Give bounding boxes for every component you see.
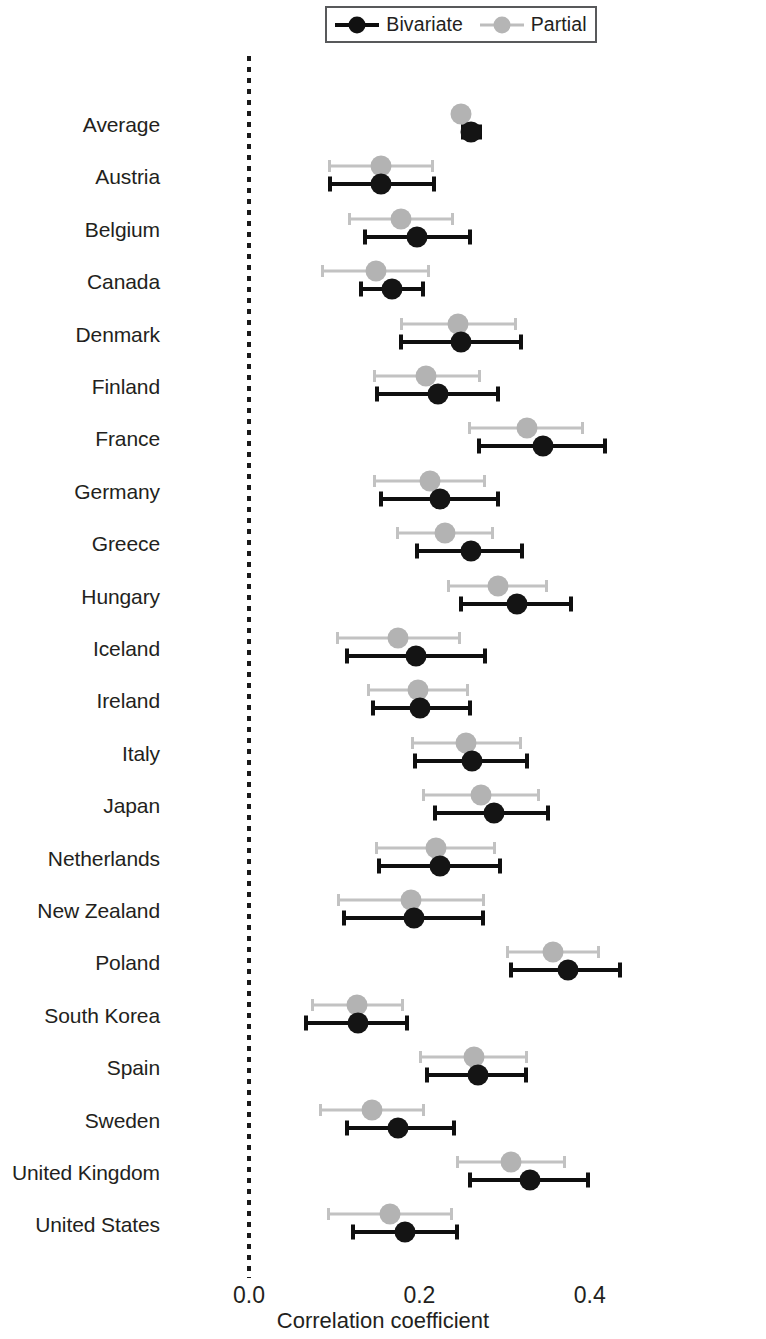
interval-cap-low: [319, 1104, 322, 1116]
interval-cap-high: [493, 842, 496, 854]
estimate-point: [557, 960, 578, 981]
interval-cap-low: [415, 544, 419, 559]
interval-cap-low: [336, 632, 339, 644]
forest-plot-figure: Bivariate Partial AverageAustriaBelgiumC…: [0, 0, 766, 1339]
estimate-point: [410, 698, 431, 719]
interval-cap-low: [359, 282, 363, 297]
interval-partial: [400, 316, 517, 332]
interval-cap-low: [345, 1120, 349, 1135]
interval-bivariate: [413, 753, 529, 769]
interval-cap-high: [597, 946, 600, 958]
interval-partial: [367, 682, 469, 698]
interval-cap-low: [375, 387, 379, 402]
interval-cap-high: [519, 737, 522, 749]
interval-cap-low: [304, 1015, 308, 1030]
interval-cap-low: [413, 753, 417, 768]
category-label: South Korea: [44, 1004, 160, 1025]
interval-cap-low: [371, 701, 375, 716]
interval-bivariate: [304, 1015, 409, 1031]
interval-cap-low: [373, 475, 376, 487]
interval-partial: [311, 997, 404, 1013]
interval-cap-high: [451, 213, 454, 225]
interval-cap-high: [401, 999, 404, 1011]
estimate-point: [451, 331, 472, 352]
category-axis-labels: AverageAustriaBelgiumCanadaDenmarkFinlan…: [0, 0, 160, 1290]
interval-cap-low: [506, 946, 509, 958]
interval-bivariate: [477, 438, 607, 454]
interval-partial: [327, 1206, 453, 1222]
interval-bivariate: [359, 281, 425, 297]
interval-cap-low: [456, 1156, 459, 1168]
legend-label-bivariate: Bivariate: [386, 13, 463, 36]
estimate-point: [484, 803, 505, 824]
interval-cap-high: [483, 475, 486, 487]
estimate-point: [365, 261, 386, 282]
estimate-point: [543, 942, 564, 963]
category-label: France: [95, 428, 160, 449]
interval-bivariate: [425, 1067, 528, 1083]
interval-cap-high: [514, 318, 517, 330]
legend-label-partial: Partial: [531, 13, 587, 36]
zero-reference-line: [247, 56, 251, 1278]
interval-cap-low: [509, 963, 513, 978]
interval-cap-high: [524, 1068, 528, 1083]
interval-cap-low: [321, 265, 324, 277]
interval-partial: [453, 106, 468, 122]
interval-cap-high: [563, 1156, 566, 1168]
interval-cap-low: [327, 1208, 330, 1220]
interval-bivariate: [468, 1172, 590, 1188]
legend-key-partial-icon: [480, 16, 524, 34]
interval-partial: [337, 892, 485, 908]
estimate-point: [390, 208, 411, 229]
estimate-point: [461, 122, 482, 143]
category-label: Ireland: [96, 690, 160, 711]
interval-cap-low: [468, 1173, 472, 1188]
estimate-point: [348, 1012, 369, 1033]
interval-partial: [319, 1102, 425, 1118]
estimate-point: [394, 1222, 415, 1243]
interval-cap-low: [433, 806, 437, 821]
x-tick-label: 0.4: [574, 1282, 606, 1309]
interval-cap-high: [452, 1120, 456, 1135]
interval-cap-high: [421, 282, 425, 297]
estimate-point: [462, 750, 483, 771]
interval-cap-high: [520, 544, 524, 559]
interval-bivariate: [399, 334, 523, 350]
estimate-point: [379, 1204, 400, 1225]
interval-partial: [373, 473, 485, 489]
interval-bivariate: [377, 858, 502, 874]
plot-area: AverageAustriaBelgiumCanadaDenmarkFinlan…: [0, 0, 766, 1290]
interval-cap-low: [447, 580, 450, 592]
interval-cap-high: [468, 229, 472, 244]
interval-cap-low: [348, 213, 351, 225]
estimate-point: [388, 1117, 409, 1138]
interval-partial: [456, 1154, 566, 1170]
interval-bivariate: [509, 962, 622, 978]
interval-cap-low: [477, 439, 481, 454]
estimate-point: [405, 646, 426, 667]
category-label: Iceland: [93, 638, 160, 659]
interval-cap-low: [425, 1068, 429, 1083]
interval-cap-high: [525, 1051, 528, 1063]
estimate-point: [520, 1170, 541, 1191]
category-label: United Kingdom: [12, 1162, 160, 1183]
estimate-point: [429, 855, 450, 876]
interval-bivariate: [379, 491, 501, 507]
legend-entry-bivariate: Bivariate: [335, 8, 463, 41]
interval-partial: [506, 944, 600, 960]
interval-cap-low: [328, 160, 331, 172]
category-label: Finland: [92, 376, 160, 397]
category-label: Sweden: [85, 1109, 160, 1130]
category-label: Canada: [87, 271, 160, 292]
category-label: Denmark: [76, 323, 161, 344]
interval-cap-low: [373, 370, 376, 382]
interval-bivariate: [375, 386, 500, 402]
interval-bivariate: [371, 700, 472, 716]
interval-cap-high: [458, 632, 461, 644]
interval-cap-high: [427, 265, 430, 277]
interval-cap-high: [569, 596, 573, 611]
interval-cap-low: [367, 684, 370, 696]
x-axis-title: Correlation coefficient: [0, 1308, 766, 1334]
interval-bivariate: [433, 805, 550, 821]
category-label: Belgium: [85, 218, 160, 239]
